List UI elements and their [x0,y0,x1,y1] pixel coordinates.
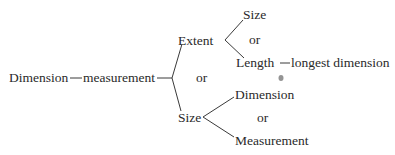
size-child-measurement: Measurement [235,133,308,149]
extent-or: or [249,32,260,48]
size-child-dimension: Dimension [235,87,294,103]
size-fork-up [203,97,234,117]
size-label: Size [178,110,201,126]
root-link-label: measurement [83,70,155,86]
length-note: longest dimension [291,55,390,71]
fork-down [172,78,181,111]
size-or: or [257,110,268,126]
speck-mark [279,75,284,81]
extent-fork-up [225,20,243,40]
root-label: Dimension [9,70,68,86]
fork-up [172,44,182,78]
extent-child-length: Length [236,55,274,71]
size-fork-down [203,117,234,137]
extent-label: Extent [178,33,213,49]
branch-or: or [196,70,207,86]
extent-child-size: Size [243,7,266,23]
